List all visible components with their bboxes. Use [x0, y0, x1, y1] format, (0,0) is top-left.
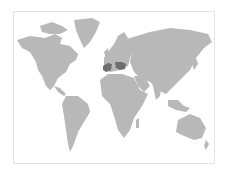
australia[interactable] [176, 114, 206, 140]
south-america[interactable] [62, 96, 90, 152]
world-map [0, 0, 226, 174]
arctic-islands [40, 22, 68, 34]
greenland[interactable] [74, 18, 100, 48]
new-zealand [204, 140, 209, 150]
madagascar [136, 118, 139, 128]
north-america[interactable] [17, 34, 78, 90]
southeast-asia [168, 100, 190, 112]
land-masses [17, 18, 212, 152]
central-america [54, 86, 66, 96]
india [152, 82, 162, 100]
